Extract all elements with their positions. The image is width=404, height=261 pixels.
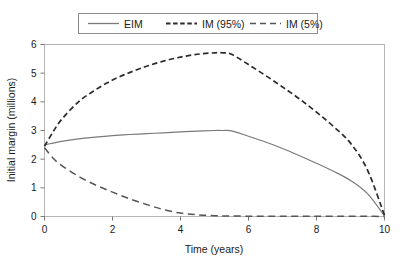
y-tick-label: 4 — [31, 96, 37, 107]
x-tick-label: 8 — [314, 224, 320, 235]
y-tick-label: 3 — [31, 125, 37, 136]
x-tick-label: 10 — [379, 224, 391, 235]
x-tick-label: 2 — [110, 224, 116, 235]
chart-legend: EIM IM (95%) IM (5%) — [79, 14, 323, 34]
y-axis-title: Initial margin (millions) — [5, 78, 17, 182]
y-tick-label: 6 — [31, 39, 37, 50]
chart-figure: EIM IM (95%) IM (5%) 0123456 0246810 Tim… — [0, 0, 404, 261]
x-axis-title: Time (years) — [185, 243, 244, 255]
y-tick-label: 1 — [31, 182, 37, 193]
y-tick-label: 2 — [31, 154, 37, 165]
x-tick-label: 4 — [178, 224, 184, 235]
legend-label-eim: EIM — [124, 18, 143, 30]
legend-label-im05: IM (5%) — [286, 18, 323, 30]
y-tick-label: 5 — [31, 68, 37, 79]
x-tick-label: 6 — [246, 224, 252, 235]
y-tick-label: 0 — [31, 211, 37, 222]
line-chart: EIM IM (95%) IM (5%) 0123456 0246810 Tim… — [0, 0, 404, 261]
x-tick-label: 0 — [42, 224, 48, 235]
legend-label-im95: IM (95%) — [202, 18, 245, 30]
